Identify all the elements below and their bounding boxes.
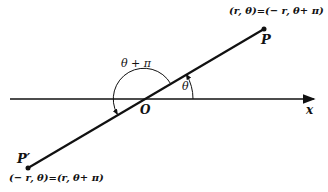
angle-theta-plus-pi-label: θ + π bbox=[121, 58, 151, 69]
point-p-label: P bbox=[261, 33, 271, 46]
origin-label: O bbox=[140, 104, 150, 116]
polar-diagram: (r, θ)=(− r, θ+ π) P P′ (− r, θ)=(r, θ+ … bbox=[0, 0, 328, 192]
point-p-coords: (r, θ)=(− r, θ+ π) bbox=[229, 6, 324, 16]
point-p-prime-label: P′ bbox=[17, 152, 30, 165]
angle-theta-label: θ bbox=[182, 81, 189, 92]
point-p bbox=[262, 27, 267, 32]
x-axis-label: x bbox=[306, 104, 313, 116]
point-p-prime-coords: (− r, θ)=(r, θ+ π) bbox=[9, 173, 104, 183]
diagram-graphics bbox=[0, 0, 328, 192]
point-p-prime bbox=[26, 166, 31, 171]
